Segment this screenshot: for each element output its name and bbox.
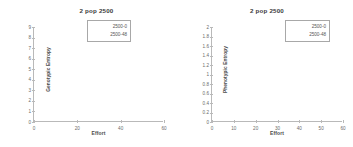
x-tick-mark — [321, 120, 322, 123]
y-axis-label: Phenotypic Entropy — [223, 40, 228, 100]
x-tick-mark — [34, 120, 35, 123]
y-tick-label: 7 — [28, 45, 31, 52]
x-tick-label: 50 — [319, 125, 324, 132]
x-tick-mark — [164, 120, 165, 123]
y-tick-mark — [32, 59, 35, 60]
y-tick-label: 1 — [28, 108, 31, 115]
y-tick-mark — [210, 94, 213, 95]
y-tick-mark — [210, 113, 213, 114]
legend-swatch-icon — [98, 27, 110, 28]
y-tick-mark — [32, 69, 35, 70]
y-tick-label: 0.6 — [203, 90, 209, 97]
x-tick-label: 0 — [33, 125, 36, 132]
x-tick-mark — [121, 120, 122, 123]
legend-item: 2500-0 — [289, 23, 326, 31]
y-tick-mark — [210, 46, 213, 47]
y-tick-mark — [210, 56, 213, 57]
y-tick-label: 0 — [206, 119, 209, 126]
legend-swatch-icon — [294, 35, 306, 36]
y-tick-label: 1.4 — [203, 52, 209, 59]
chart-legend: 2500-0 2500-48 — [87, 20, 131, 42]
y-tick-mark — [210, 27, 213, 28]
y-tick-mark — [32, 27, 35, 28]
y-tick-label: 5 — [28, 66, 31, 73]
x-tick-mark — [234, 120, 235, 123]
y-tick-label: 2 — [206, 24, 209, 31]
y-tick-label: 9 — [28, 24, 31, 31]
legend-label: 2500-0 — [113, 23, 127, 31]
y-tick-label: 0.8 — [203, 81, 209, 88]
y-tick-label: 0.4 — [203, 100, 209, 107]
y-tick-mark — [210, 37, 213, 38]
y-tick-mark — [210, 65, 213, 66]
x-tick-mark — [278, 120, 279, 123]
legend-label: 2500-48 — [110, 31, 127, 39]
x-tick-label: 60 — [161, 125, 166, 132]
legend-swatch-icon — [297, 27, 309, 28]
y-tick-label: 2 — [28, 97, 31, 104]
y-tick-mark — [32, 101, 35, 102]
legend-item: 2500-0 — [91, 23, 127, 31]
y-axis-label: Genotypic Entropy — [46, 40, 51, 100]
y-tick-label: 1.8 — [203, 33, 209, 40]
y-tick-label: 1 — [206, 71, 209, 78]
x-tick-label: 0 — [211, 125, 214, 132]
y-tick-mark — [32, 111, 35, 112]
y-tick-mark — [32, 90, 35, 91]
page-title: 2 pop 2500 — [0, 7, 185, 14]
x-tick-mark — [212, 120, 213, 123]
y-tick-label: 4 — [28, 76, 31, 83]
x-tick-label: 20 — [253, 125, 258, 132]
two-panel-figure: 2 pop 2500 Genotypic Entropy Effort 0123… — [0, 0, 353, 147]
y-tick-mark — [210, 75, 213, 76]
x-tick-label: 40 — [297, 125, 302, 132]
x-tick-mark — [299, 120, 300, 123]
legend-item: 2500-48 — [91, 31, 127, 39]
legend-item: 2500-48 — [289, 31, 326, 39]
x-tick-mark — [77, 120, 78, 123]
y-tick-label: 0 — [28, 119, 31, 126]
legend-label: 2500-48 — [309, 31, 326, 39]
y-tick-mark — [32, 38, 35, 39]
x-tick-label: 60 — [340, 125, 345, 132]
chart-panel-genotypic-entropy: 2 pop 2500 Genotypic Entropy Effort 0123… — [0, 0, 177, 147]
chart-panel-phenotypic-entropy: 2 pop 2500 Phenotypic Entropy Effort 00.… — [177, 0, 353, 147]
y-tick-label: 3 — [28, 87, 31, 94]
y-tick-mark — [210, 84, 213, 85]
x-axis-label: Effort — [34, 130, 163, 136]
y-tick-label: 8 — [28, 34, 31, 41]
page-title: 2 pop 2500 — [177, 7, 353, 14]
x-tick-label: 10 — [231, 125, 236, 132]
y-tick-label: 1.2 — [203, 62, 209, 69]
y-tick-mark — [210, 103, 213, 104]
x-tick-label: 30 — [275, 125, 280, 132]
y-tick-label: 0.2 — [203, 109, 209, 116]
y-tick-mark — [32, 80, 35, 81]
y-tick-label: 6 — [28, 55, 31, 62]
x-tick-label: 40 — [118, 125, 123, 132]
y-tick-label: 1.6 — [203, 43, 209, 50]
x-tick-mark — [343, 120, 344, 123]
y-tick-mark — [32, 48, 35, 49]
chart-legend: 2500-0 2500-48 — [285, 20, 330, 42]
x-tick-label: 20 — [75, 125, 80, 132]
legend-swatch-icon — [95, 35, 107, 36]
legend-label: 2500-0 — [312, 23, 326, 31]
x-tick-mark — [256, 120, 257, 123]
